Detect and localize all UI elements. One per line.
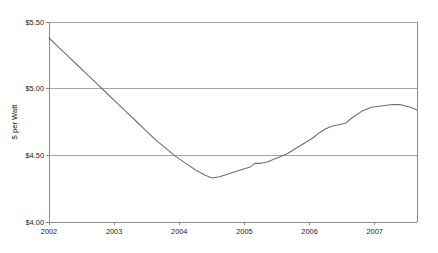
x-axis-tick-label: 2002	[41, 227, 57, 236]
y-axis-tick-label: $4.50	[26, 151, 45, 160]
x-axis-tick-label: 2007	[366, 227, 382, 236]
y-axis-title: $ per Watt	[10, 104, 19, 140]
chart-canvas: $4.00$4.50$5.00$5.50 2002200320042005200…	[0, 0, 438, 253]
y-axis-tick-label: $5.50	[26, 18, 45, 27]
price-per-watt-line-chart: $4.00$4.50$5.00$5.50 2002200320042005200…	[0, 0, 438, 253]
x-axis-tick-label: 2005	[236, 227, 252, 236]
chart-background	[0, 0, 438, 253]
y-axis-tick-label: $5.00	[26, 84, 45, 93]
x-axis-tick-label: 2006	[301, 227, 317, 236]
x-axis-tick-label: 2004	[171, 227, 187, 236]
x-axis-tick-label: 2003	[106, 227, 122, 236]
y-axis-tick-label: $4.00	[26, 218, 45, 227]
